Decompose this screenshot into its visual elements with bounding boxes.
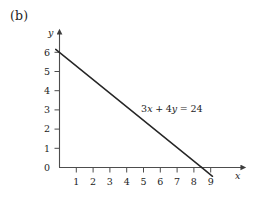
- x-axis-label: x: [235, 171, 240, 181]
- equation-var-x: x: [147, 103, 152, 114]
- equation-constant: 24: [190, 103, 202, 114]
- y-tick-label-6: 6: [38, 48, 50, 58]
- figure-container: (b): [0, 0, 254, 201]
- x-tick-label-3: 3: [104, 177, 116, 187]
- y-tick-label-3: 3: [38, 105, 50, 115]
- y-axis-ticks: [55, 52, 60, 148]
- x-tick-label-2: 2: [87, 177, 99, 187]
- y-axis-label: y: [48, 28, 53, 38]
- x-tick-label-7: 7: [171, 177, 183, 187]
- x-tick-label-9: 9: [205, 177, 217, 187]
- x-tick-label-4: 4: [121, 177, 133, 187]
- y-tick-label-5: 5: [38, 67, 50, 77]
- y-tick-label-1: 1: [38, 144, 50, 154]
- equation-annotation: 3x+4y=24: [141, 104, 203, 114]
- equation-plus-sign: +: [153, 103, 166, 114]
- x-tick-label-6: 6: [154, 177, 166, 187]
- x-tick-label-5: 5: [138, 177, 150, 187]
- equation-equals-sign: =: [177, 103, 190, 114]
- x-axis-ticks: [76, 168, 210, 173]
- x-tick-label-1: 1: [70, 177, 82, 187]
- y-tick-label-0: 0: [38, 163, 50, 173]
- y-tick-label-4: 4: [38, 86, 50, 96]
- y-tick-label-2: 2: [38, 124, 50, 134]
- x-tick-label-8: 8: [188, 177, 200, 187]
